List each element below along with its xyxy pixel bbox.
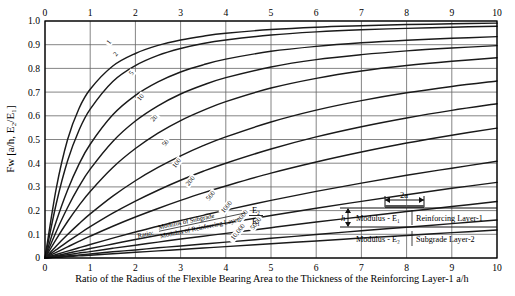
svg-text:2: 2 <box>133 262 138 273</box>
svg-text:2: 2 <box>133 7 138 18</box>
svg-text:0.2: 0.2 <box>28 205 40 216</box>
inset-h-label: h <box>341 213 345 223</box>
y-axis-title: Fᴡ [a/h, E₂/E₁] <box>4 105 16 172</box>
svg-text:5: 5 <box>269 262 274 273</box>
inset-layer1-name: Reinforcing Layer-1 <box>416 214 483 223</box>
figure-canvas: 012345678910 012345678910 00.10.20.30.40… <box>0 0 515 296</box>
inset-2a-label: 2a <box>400 190 408 200</box>
svg-text:0.9: 0.9 <box>28 39 40 50</box>
svg-text:9: 9 <box>449 262 454 273</box>
svg-text:0.4: 0.4 <box>28 158 40 169</box>
svg-text:0.5: 0.5 <box>28 134 40 145</box>
svg-text:4: 4 <box>223 262 228 273</box>
svg-text:8: 8 <box>404 7 409 18</box>
svg-text:6: 6 <box>314 7 319 18</box>
svg-text:1.0: 1.0 <box>28 15 40 26</box>
svg-text:0: 0 <box>35 252 40 263</box>
inset-layer1-modulus: Modulus - E₁ <box>356 214 400 223</box>
svg-text:9: 9 <box>449 7 454 18</box>
svg-text:6: 6 <box>314 262 319 273</box>
svg-text:1: 1 <box>88 262 93 273</box>
ratio-denominator: E₁ <box>252 216 260 226</box>
inset-layer2-name: Subgrade Layer-2 <box>416 235 475 244</box>
svg-text:7: 7 <box>359 7 364 18</box>
svg-text:3: 3 <box>178 262 183 273</box>
svg-text:7: 7 <box>359 262 364 273</box>
svg-text:0.7: 0.7 <box>28 87 40 98</box>
inset-layer2-modulus: Modulus - E₂ <box>356 235 400 244</box>
svg-text:4: 4 <box>223 7 228 18</box>
svg-text:1: 1 <box>88 7 93 18</box>
svg-text:0.3: 0.3 <box>28 181 40 192</box>
ratio-numerator: E₂ <box>252 205 260 215</box>
x-axis-title: Ratio of the Radius of the Flexible Bear… <box>75 273 468 284</box>
svg-text:10: 10 <box>492 7 502 18</box>
svg-text:10: 10 <box>492 262 502 273</box>
svg-text:0.1: 0.1 <box>28 229 40 240</box>
svg-text:3: 3 <box>178 7 183 18</box>
svg-text:0.6: 0.6 <box>28 110 40 121</box>
svg-text:0: 0 <box>43 7 48 18</box>
svg-text:0.8: 0.8 <box>28 63 40 74</box>
svg-text:5: 5 <box>269 7 274 18</box>
svg-text:8: 8 <box>404 262 409 273</box>
svg-text:0: 0 <box>43 262 48 273</box>
